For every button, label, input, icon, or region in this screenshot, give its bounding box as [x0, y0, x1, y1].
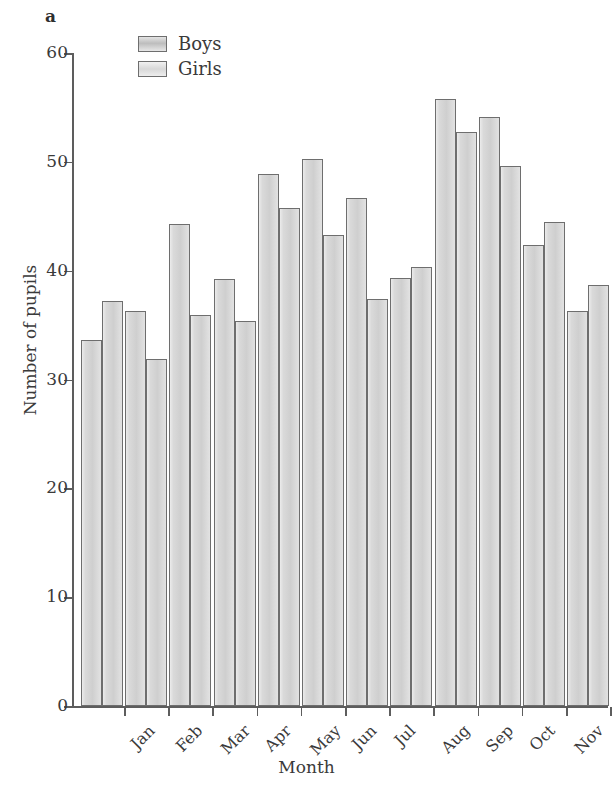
bar-group-feb — [125, 53, 167, 706]
x-tick-mark-dec — [610, 707, 612, 716]
bar-girls-nov[interactable] — [544, 222, 565, 706]
bar-girls-aug[interactable] — [411, 267, 432, 706]
x-tick-mark-sep — [478, 707, 480, 716]
bar-girls-jul[interactable] — [367, 299, 388, 706]
bar-group-jan — [81, 53, 123, 706]
bar-group-jun — [302, 53, 344, 706]
x-tick-label-mar: Mar — [217, 721, 254, 758]
x-tick-mark-feb — [168, 707, 170, 716]
bar-girls-may[interactable] — [279, 208, 300, 706]
bar-girls-jun[interactable] — [323, 235, 344, 706]
y-tick-label: 60 — [46, 42, 68, 62]
bar-boys-dec[interactable] — [567, 311, 588, 706]
x-tick-mark-oct — [522, 707, 524, 716]
bar-girls-feb[interactable] — [146, 359, 167, 706]
legend-swatch-boys — [138, 36, 167, 52]
x-tick-mark-mar — [212, 707, 214, 716]
bar-boys-may[interactable] — [258, 174, 279, 706]
x-tick-label-oct: Oct — [525, 721, 559, 755]
bar-group-aug — [390, 53, 432, 706]
figure: a Number of pupils Month Boys Girls 0102… — [0, 0, 613, 786]
x-tick-label-jun: Jun — [348, 721, 381, 754]
x-tick-mark-jan — [124, 707, 126, 716]
plot-area: 0102030405060 JanFebMarAprMayJunJulAugSe… — [73, 53, 608, 706]
x-tick-mark-jul — [389, 707, 391, 716]
y-tick-label: 10 — [46, 586, 68, 606]
legend-label-boys: Boys — [178, 33, 221, 54]
bar-group-jul — [346, 53, 388, 706]
bar-girls-dec[interactable] — [588, 285, 609, 706]
bar-boys-oct[interactable] — [479, 117, 500, 706]
bar-girls-oct[interactable] — [500, 166, 521, 706]
bar-boys-jul[interactable] — [346, 198, 367, 706]
bar-group-nov — [523, 53, 565, 706]
y-tick-label: 30 — [46, 369, 68, 389]
bar-group-apr — [214, 53, 256, 706]
x-tick-label-apr: Apr — [260, 721, 294, 755]
bar-boys-nov[interactable] — [523, 245, 544, 706]
x-tick-label-nov: Nov — [571, 721, 608, 758]
bar-group-sep — [435, 53, 477, 706]
y-tick-label: 40 — [46, 260, 68, 280]
bar-group-may — [258, 53, 300, 706]
x-tick-label-jan: Jan — [127, 721, 159, 753]
bar-boys-mar[interactable] — [169, 224, 190, 706]
x-tick-mark-jun — [345, 707, 347, 716]
y-tick-label: 50 — [46, 151, 68, 171]
x-tick-label-sep: Sep — [482, 721, 517, 756]
x-axis-title: Month — [0, 757, 613, 777]
bar-girls-jan[interactable] — [102, 301, 123, 706]
bar-group-mar — [169, 53, 211, 706]
bar-boys-apr[interactable] — [214, 279, 235, 706]
x-axis-spine — [72, 706, 608, 708]
x-tick-label-may: May — [306, 721, 344, 759]
y-axis-title: Number of pupils — [20, 230, 40, 450]
bar-boys-aug[interactable] — [390, 278, 411, 706]
bar-group-oct — [479, 53, 521, 706]
x-tick-label-aug: Aug — [438, 721, 474, 757]
bar-girls-sep[interactable] — [456, 132, 477, 706]
x-tick-label-feb: Feb — [172, 721, 207, 756]
panel-label: a — [45, 6, 56, 26]
x-tick-mark-apr — [257, 707, 259, 716]
bar-girls-apr[interactable] — [235, 321, 256, 706]
bar-boys-sep[interactable] — [435, 99, 456, 706]
x-tick-mark-nov — [566, 707, 568, 716]
x-tick-label-jul: Jul — [391, 721, 420, 750]
x-tick-mark-may — [301, 707, 303, 716]
bar-girls-mar[interactable] — [190, 315, 211, 706]
bar-group-dec — [567, 53, 609, 706]
bar-boys-feb[interactable] — [125, 311, 146, 706]
y-tick-label: 0 — [57, 695, 68, 715]
bar-boys-jun[interactable] — [302, 159, 323, 706]
bar-boys-jan[interactable] — [81, 340, 102, 706]
x-tick-mark-aug — [433, 707, 435, 716]
y-tick-label: 20 — [46, 477, 68, 497]
